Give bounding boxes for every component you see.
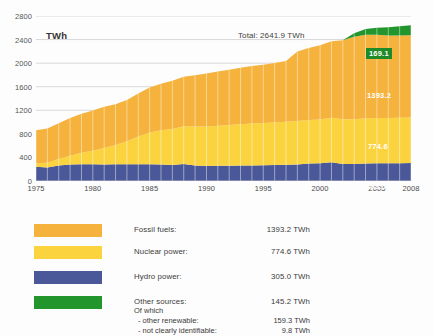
legend-sublabel-not-clearly-identifiable: - not clearly identifiable: — [138, 326, 217, 335]
y-tick-2400: 2400 — [15, 35, 32, 44]
legend: Fossil fuels: 1393.2 TWh Nuclear power: … — [16, 220, 418, 330]
legend-swatch-fossil — [34, 224, 102, 237]
y-tick-400: 400 — [19, 153, 32, 162]
legend-of-which-label: Of which — [134, 306, 163, 315]
legend-label-other: Other sources: — [134, 297, 187, 306]
legend-swatch-hydro — [34, 271, 102, 284]
legend-label-hydro: Hydro power: — [134, 272, 182, 281]
x-tick-1975: 1975 — [27, 184, 44, 193]
legend-value-other: 145.2 TWh — [234, 297, 310, 306]
series-value-nuclear: 774.6 — [368, 142, 388, 151]
legend-value-hydro: 305.0 TWh — [234, 272, 310, 281]
legend-subvalue-other-renewable: 159.3 TWh — [234, 316, 310, 325]
y-tick-1600: 1600 — [15, 82, 32, 91]
x-tick-1995: 1995 — [255, 184, 272, 193]
chart-panel: TWh Total: 2641.9 TWh 040080012001600200… — [10, 8, 423, 213]
y-tick-800: 800 — [19, 129, 32, 138]
legend-swatch-other — [34, 296, 102, 309]
y-tick-1200: 1200 — [15, 106, 32, 115]
x-axis-ticks: 19751980198519901995200020052008 — [36, 184, 411, 200]
y-axis-ticks: 040080012001600200024002800 — [36, 16, 411, 181]
legend-value-fossil: 1393.2 TWh — [234, 225, 310, 234]
x-tick-1985: 1985 — [141, 184, 158, 193]
legend-subvalue-not-clearly-identifiable: 9.8 TWh — [234, 326, 310, 335]
legend-row-hydro: Hydro power: 305.0 TWh — [16, 271, 418, 289]
legend-row-nuclear: Nuclear power: 774.6 TWh — [16, 246, 418, 264]
legend-row-fossil: Fossil fuels: 1393.2 TWh — [16, 224, 418, 242]
legend-label-nuclear: Nuclear power: — [134, 247, 188, 256]
legend-sublabel-other-renewable: - other renewable: — [138, 316, 198, 325]
x-tick-1990: 1990 — [198, 184, 215, 193]
x-tick-1980: 1980 — [84, 184, 101, 193]
y-tick-2800: 2800 — [15, 12, 32, 21]
y-tick-2000: 2000 — [15, 59, 32, 68]
series-value-hydro: 305.0 — [366, 182, 386, 191]
legend-value-nuclear: 774.6 TWh — [234, 247, 310, 256]
series-value-fossil: 1393.2 — [367, 91, 391, 100]
legend-label-fossil: Fossil fuels: — [134, 225, 176, 234]
legend-swatch-nuclear — [34, 246, 102, 259]
chart-page: TWh Total: 2641.9 TWh 040080012001600200… — [0, 0, 433, 336]
plot-area: 040080012001600200024002800 — [36, 16, 411, 181]
x-tick-2008: 2008 — [402, 184, 419, 193]
legend-row-other: Other sources: 145.2 TWh — [16, 296, 418, 314]
series-value-other: 169.1 — [366, 48, 392, 59]
x-tick-2000: 2000 — [312, 184, 329, 193]
